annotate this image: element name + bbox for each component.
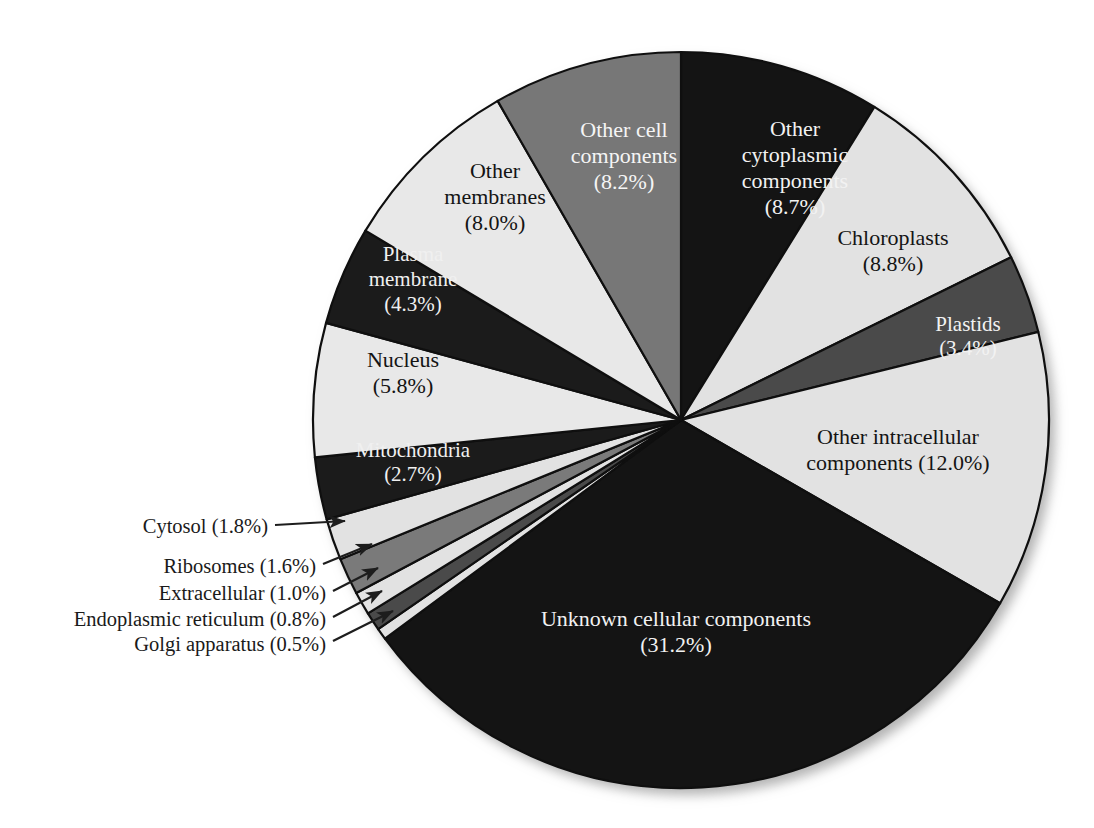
pie-slice-label-line: (3.4%) — [939, 336, 997, 360]
pie-slice-label-line: (31.2%) — [640, 632, 711, 657]
pie-slice-label-line: Other — [770, 116, 821, 141]
pie-chart-svg: Othercytoplasmiccomponents(8.7%)Chloropl… — [0, 0, 1094, 828]
pie-slice-label-line: components — [571, 143, 677, 168]
pie-slice-label-line: (2.7%) — [384, 462, 442, 486]
pie-slice-label-line: Other intracellular — [817, 424, 980, 449]
pie-slice-label-line: Mitochondria — [356, 437, 471, 461]
pie-slice-label-line: (8.2%) — [594, 169, 654, 194]
pie-slice-label: Nucleus(5.8%) — [367, 347, 439, 398]
pie-slice-label-line: (4.3%) — [384, 292, 442, 316]
pie-slice-label-line: Other cell — [580, 117, 667, 142]
pie-chart-figure: Othercytoplasmiccomponents(8.7%)Chloropl… — [0, 0, 1094, 828]
pie-slice-label-line: Plasma — [383, 242, 444, 266]
pie-slice-label-line: components (12.0%) — [806, 450, 989, 475]
pie-slice-label-line: Other — [470, 158, 521, 183]
pie-slice-label-line: membranes — [444, 184, 545, 209]
pie-slice-label-line: (8.0%) — [465, 210, 525, 235]
pie-callout-label: Golgi apparatus (0.5%) — [134, 633, 326, 656]
pie-slice-label-line: (5.8%) — [373, 373, 433, 398]
pie-slice-label-line: Nucleus — [367, 347, 439, 372]
pie-slice-label-line: components — [742, 168, 848, 193]
pie-slice-label-line: cytoplasmic — [742, 142, 849, 167]
pie-callout-label: Extracellular (1.0%) — [159, 582, 326, 605]
pie-slice-label: Other intracellularcomponents (12.0%) — [806, 424, 989, 475]
pie-callout-label: Cytosol (1.8%) — [143, 515, 268, 538]
pie-slice-label: Plastids(3.4%) — [935, 311, 1000, 360]
pie-slice-label-line: Unknown cellular components — [541, 606, 811, 631]
pie-slice-label-line: membrane — [369, 267, 458, 291]
pie-slices-group — [313, 52, 1049, 788]
pie-slice-label-line: (8.8%) — [863, 251, 923, 276]
pie-slice-label-line: Plastids — [935, 311, 1000, 335]
pie-callout-label: Ribosomes (1.6%) — [163, 555, 316, 578]
pie-slice-label-line: (8.7%) — [765, 194, 825, 219]
pie-callout-label: Endoplasmic reticulum (0.8%) — [74, 608, 326, 631]
pie-slice-label-line: Chloroplasts — [837, 225, 948, 250]
